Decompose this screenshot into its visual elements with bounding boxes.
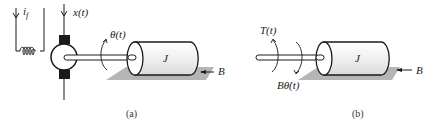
angle-label: θ(t) [110, 28, 126, 41]
field-current-label: if [23, 5, 30, 20]
figure-a: if x(t) θ(t) J B (a) [13, 4, 225, 120]
damping-label-a: B [218, 65, 225, 77]
caption-b: (b) [352, 108, 364, 120]
torque-label: T(t) [260, 24, 277, 37]
field-circuit: if [13, 5, 44, 55]
damping-torque-label: Bθ̇(t) [277, 79, 300, 92]
load-shaft [256, 55, 318, 60]
inertia-cylinder: J [127, 42, 198, 75]
diagram-canvas: if x(t) θ(t) J B (a) [0, 0, 428, 129]
brush-bottom-icon [59, 70, 70, 79]
damping-label-b: B [416, 64, 423, 76]
brush-top-icon [59, 35, 70, 44]
dc-motor: x(t) [51, 4, 89, 100]
field-coil-icon [20, 47, 36, 55]
caption-a: (a) [126, 108, 137, 120]
motor-shaft [64, 55, 136, 60]
figure-b: T(t) Bθ̇(t) J B (b) [256, 24, 423, 120]
inertia-cylinder-b: J [316, 42, 389, 75]
armature-input-label: x(t) [72, 6, 89, 19]
